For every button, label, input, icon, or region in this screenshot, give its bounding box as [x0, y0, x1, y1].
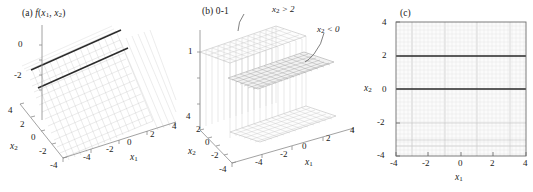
panel-c-x-axis-label: x1 — [455, 172, 463, 183]
panel-a-x1-axis-label-sub: 1 — [134, 155, 138, 163]
panel-b-leader-upper — [238, 14, 244, 31]
panel-a-ztick-minus2: -2 — [14, 70, 22, 80]
panel-a-ztick-0: 0 — [18, 39, 23, 49]
panel-a-x2tick-minus4: -4 — [50, 160, 58, 170]
panel-c-ytick-minus4: -4 — [377, 150, 385, 160]
panel-c-xtick-minus2: -2 — [422, 158, 430, 168]
panel-a-x1tick-2: 2 — [150, 129, 155, 139]
panel-b-x1tick-minus4: -4 — [255, 157, 263, 167]
panel-a-far-mesh — [120, 30, 176, 130]
panel-c-plot — [360, 0, 533, 192]
panel-a: (a) f(x1, x2) — [0, 0, 180, 192]
panel-a-x2tick-minus2: -2 — [39, 146, 47, 156]
panel-a-x2tick-2: 2 — [20, 119, 25, 129]
panel-b-slab-lower — [230, 106, 336, 142]
panel-a-plot — [0, 0, 180, 192]
panel-b-x1tick-minus2: -2 — [280, 149, 288, 159]
figure-container: (a) f(x1, x2) — [0, 0, 533, 192]
panel-b-x2tick-0: 0 — [205, 137, 210, 147]
panel-b-x1tick-2: 2 — [326, 133, 331, 143]
panel-c-ytick-0: 0 — [382, 84, 387, 94]
panel-c-xtick-4: 4 — [523, 158, 528, 168]
panel-a-x1tick-minus4: -4 — [83, 152, 91, 162]
panel-a-z-ticks — [39, 45, 42, 90]
panel-a-x2-axis-label-sub: 2 — [14, 144, 18, 152]
panel-b-z-ticks — [197, 52, 200, 104]
panel-a-x1tick-minus2: -2 — [106, 144, 114, 154]
panel-b-ztick-1: 1 — [188, 46, 193, 56]
panel-c-xtick-0: 0 — [458, 158, 463, 168]
panel-b-x1-axis-label-sub: 1 — [309, 160, 313, 168]
panel-b-plot — [172, 0, 360, 192]
panel-a-x2tick-4: 4 — [8, 105, 13, 115]
panel-a-x1-axis — [63, 122, 176, 158]
panel-c-xtick-2: 2 — [490, 158, 495, 168]
panel-b: (b) 0-1 x2 > 2 x2 < 0 — [172, 0, 360, 192]
panel-c-ytick-2: 2 — [382, 50, 387, 60]
panel-a-x2tick-0: 0 — [31, 132, 36, 142]
panel-b-x2tick-4: 4 — [186, 111, 191, 121]
panel-b-x2tick-minus4: -4 — [219, 164, 227, 174]
panel-a-surface-mesh-x2 — [32, 31, 153, 160]
panel-b-x1tick-0: 0 — [302, 141, 307, 151]
panel-c-y-axis-label-sub: 2 — [368, 86, 372, 94]
panel-b-x2-axis-label: x2 — [188, 146, 196, 157]
panel-b-x1-axis-label: x1 — [305, 157, 313, 168]
panel-c-ytick-minus2: -2 — [377, 117, 385, 127]
panel-c: (c) — [360, 0, 533, 192]
panel-a-surface-mesh-x1 — [26, 31, 153, 158]
panel-b-x2-axis-label-sub: 2 — [192, 149, 196, 157]
panel-b-x2tick-2: 2 — [196, 124, 201, 134]
panel-b-x2tick-minus2: -2 — [211, 150, 219, 160]
panel-c-x-axis-label-sub: 1 — [459, 175, 463, 183]
panel-a-breakline-upper — [31, 30, 121, 70]
panel-a-x2-axis-label: x2 — [10, 141, 18, 152]
panel-c-ytick-4: 4 — [382, 17, 387, 27]
panel-a-plateau-mesh — [22, 26, 114, 69]
panel-a-x1-axis-label: x1 — [130, 152, 138, 163]
panel-a-x1tick-0: 0 — [127, 137, 132, 147]
panel-b-x1tick-4: 4 — [350, 125, 355, 135]
panel-c-y-axis-label: x2 — [364, 83, 372, 94]
panel-c-xtick-minus4: -4 — [390, 158, 398, 168]
panel-a-breakline-lower — [38, 48, 128, 88]
